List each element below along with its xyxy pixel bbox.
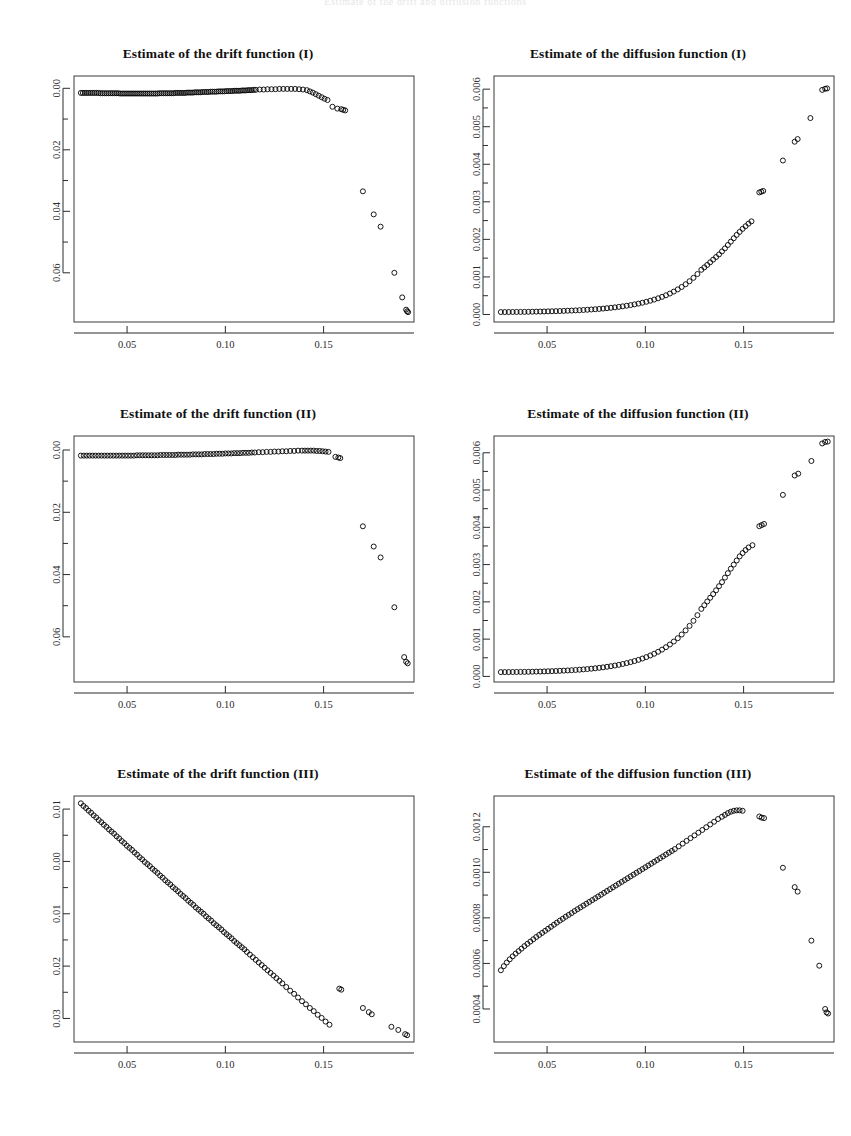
svg-text:0.10: 0.10 [636, 1059, 654, 1070]
svg-text:0.05: 0.05 [118, 339, 136, 350]
panel-drift-II: Estimate of the drift function (II) 0.00… [8, 406, 428, 726]
svg-text:0.0004: 0.0004 [471, 994, 482, 1024]
panel-drift-III: Estimate of the drift function (III) 0.0… [8, 766, 428, 1091]
plot-drift-I[interactable]: 0.000.020.040.060.050.100.15 [8, 68, 428, 366]
svg-text:0.06: 0.06 [51, 628, 62, 646]
figure-page: Estimate of the drift and diffusion func… [0, 0, 851, 1136]
plot-diffusion-III[interactable]: 0.00040.00060.00080.00100.00120.050.100.… [428, 788, 848, 1086]
svg-text:0.001: 0.001 [471, 627, 482, 651]
svg-text:0.003: 0.003 [471, 553, 482, 577]
svg-text:0.004: 0.004 [471, 152, 482, 176]
plot-drift-II[interactable]: 0.000.020.040.060.050.100.15 [8, 428, 428, 726]
svg-text:0.001: 0.001 [471, 265, 482, 289]
svg-text:0.05: 0.05 [538, 699, 556, 710]
data-points [78, 448, 410, 666]
panel-title-diffusion-III: Estimate of the diffusion function (III) [428, 766, 848, 782]
svg-text:0.15: 0.15 [734, 699, 752, 710]
svg-text:0.0010: 0.0010 [471, 858, 482, 887]
svg-text:0.10: 0.10 [216, 699, 234, 710]
panel-drift-I: Estimate of the drift function (I) 0.000… [8, 46, 428, 366]
data-points [498, 86, 829, 315]
svg-text:0.10: 0.10 [636, 699, 654, 710]
panel-diffusion-I: Estimate of the diffusion function (I) 0… [428, 46, 848, 366]
panel-title-drift-III: Estimate of the drift function (III) [8, 766, 428, 782]
panel-title-drift-II: Estimate of the drift function (II) [8, 406, 428, 422]
svg-text:0.15: 0.15 [734, 339, 752, 350]
data-points [78, 86, 410, 314]
panel-diffusion-II: Estimate of the diffusion function (II) … [428, 406, 848, 726]
svg-text:0.04: 0.04 [51, 565, 62, 584]
svg-text:0.05: 0.05 [118, 1059, 136, 1070]
data-points [498, 439, 830, 675]
svg-text:0.10: 0.10 [216, 1059, 234, 1070]
panel-title-drift-I: Estimate of the drift function (I) [8, 46, 428, 62]
svg-text:0.00: 0.00 [51, 441, 62, 459]
svg-text:0.02: 0.02 [51, 141, 62, 159]
data-points [498, 808, 830, 1016]
svg-text:0.000: 0.000 [471, 303, 482, 327]
plot-diffusion-I[interactable]: 0.0000.0010.0020.0030.0040.0050.0060.050… [428, 68, 848, 366]
plot-diffusion-II[interactable]: 0.0000.0010.0020.0030.0040.0050.0060.050… [428, 428, 848, 726]
panel-grid: Estimate of the drift function (I) 0.000… [0, 0, 851, 1136]
svg-text:0.02: 0.02 [51, 957, 62, 975]
svg-text:0.006: 0.006 [471, 77, 482, 101]
svg-text:0.05: 0.05 [538, 1059, 556, 1070]
svg-text:0.01: 0.01 [51, 905, 62, 923]
svg-text:0.0006: 0.0006 [471, 949, 482, 978]
svg-text:0.06: 0.06 [51, 264, 62, 282]
svg-text:0.006: 0.006 [471, 441, 482, 465]
svg-text:0.15: 0.15 [314, 1059, 332, 1070]
svg-text:0.05: 0.05 [118, 699, 136, 710]
svg-text:0.00: 0.00 [51, 79, 62, 97]
svg-text:0.01: 0.01 [51, 800, 62, 818]
svg-text:0.0008: 0.0008 [471, 903, 482, 932]
svg-text:0.002: 0.002 [471, 590, 482, 614]
svg-text:0.00: 0.00 [51, 852, 62, 870]
panel-diffusion-III: Estimate of the diffusion function (III)… [428, 766, 848, 1091]
svg-text:0.04: 0.04 [51, 201, 62, 220]
svg-text:0.15: 0.15 [314, 699, 332, 710]
svg-text:0.10: 0.10 [216, 339, 234, 350]
panel-title-diffusion-I: Estimate of the diffusion function (I) [428, 46, 848, 62]
svg-text:0.15: 0.15 [314, 339, 332, 350]
svg-text:0.005: 0.005 [471, 478, 482, 502]
svg-text:0.002: 0.002 [471, 228, 482, 252]
svg-text:0.05: 0.05 [538, 339, 556, 350]
svg-text:0.15: 0.15 [734, 1059, 752, 1070]
data-points [78, 801, 409, 1038]
svg-text:0.03: 0.03 [51, 1009, 62, 1027]
svg-text:0.10: 0.10 [636, 339, 654, 350]
svg-text:0.005: 0.005 [471, 115, 482, 139]
svg-text:0.0012: 0.0012 [471, 812, 482, 841]
panel-title-diffusion-II: Estimate of the diffusion function (II) [428, 406, 848, 422]
svg-text:0.004: 0.004 [471, 515, 482, 539]
svg-text:0.02: 0.02 [51, 503, 62, 521]
svg-text:0.000: 0.000 [471, 665, 482, 689]
plot-drift-III[interactable]: 0.010.000.010.020.030.050.100.15 [8, 788, 428, 1086]
svg-text:0.003: 0.003 [471, 190, 482, 214]
